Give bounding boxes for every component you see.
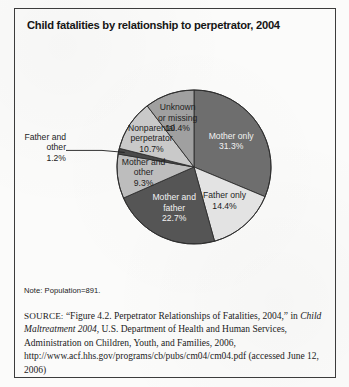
page-title: Child fatalities by relationship to perp… bbox=[27, 19, 327, 31]
figure-note: Note: Population=891. bbox=[24, 286, 100, 295]
source-label: SOURCE: bbox=[24, 311, 64, 321]
source-quoted-figure: “Figure 4.2. Perpetrator Relationships o… bbox=[66, 311, 298, 321]
figure-source: SOURCE: “Figure 4.2. Perpetrator Relatio… bbox=[24, 310, 326, 377]
figure-page: Child fatalities by relationship to perp… bbox=[0, 0, 349, 387]
pie-leader-lines bbox=[66, 150, 125, 152]
pie-chart: Mother only31.3%Father only14.4%Mother a… bbox=[14, 44, 336, 284]
pie-slice-label: Father andother1.2% bbox=[24, 132, 66, 163]
pie-chart-svg: Mother only31.3%Father only14.4%Mother a… bbox=[14, 44, 336, 284]
callout-leader-line bbox=[66, 150, 125, 152]
